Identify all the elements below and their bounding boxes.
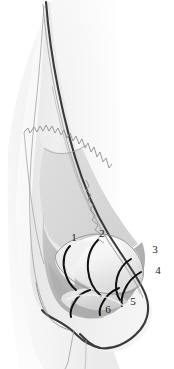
label-6: 6: [105, 303, 111, 315]
label-5: 5: [130, 295, 136, 307]
label-3: 3: [152, 243, 158, 255]
label-2: 2: [99, 227, 105, 239]
anatomical-figure: 1 2 3 4 5 6: [0, 0, 174, 369]
label-4: 4: [155, 264, 161, 276]
nose-profile-illustration: 1 2 3 4 5 6: [0, 0, 174, 369]
label-1: 1: [71, 231, 77, 243]
